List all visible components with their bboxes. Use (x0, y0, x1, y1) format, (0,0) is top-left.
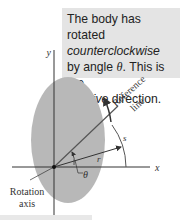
rotation-axis-label-1: Rotation (10, 186, 44, 197)
x-axis-label: x (154, 162, 160, 173)
bottom-strip (0, 215, 92, 220)
reference-label-2: line (128, 95, 147, 114)
arc-length-label: s (123, 133, 127, 143)
arc-s (112, 125, 126, 167)
angle-label: θ (83, 169, 88, 180)
rigid-body (31, 77, 105, 203)
y-axis-label: y (46, 47, 52, 58)
origin-dot (52, 165, 56, 169)
rotation-diagram: y x Reference line s r θ Rotation axis (0, 0, 188, 220)
radius-label: r (97, 154, 101, 164)
rotation-axis-label-2: axis (19, 198, 35, 209)
